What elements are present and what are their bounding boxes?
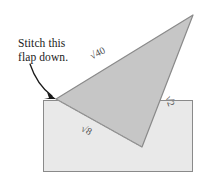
label-hypotenuse: √40 xyxy=(88,44,107,61)
label-hypotenuse-text: √40 xyxy=(88,44,107,61)
curved-arrow-icon xyxy=(30,64,56,99)
annotation-line-2: flap down. xyxy=(18,51,68,65)
annotation-label: Stitch this flap down. xyxy=(18,37,68,64)
annotation-line-1: Stitch this xyxy=(18,37,68,51)
figure-canvas: √40 √2 √8 xyxy=(0,0,208,183)
geometry-figure: √40 √2 √8 Stitch this flap down. xyxy=(0,0,208,183)
